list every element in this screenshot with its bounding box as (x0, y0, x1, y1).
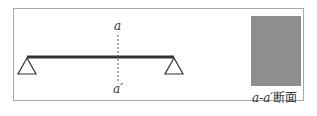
cut-label-bottom: a′ (113, 82, 123, 96)
section-label-prefix: a-a′ (252, 91, 273, 105)
section-label-suffix: 断面 (273, 91, 297, 105)
cut-label-top: a (114, 19, 121, 33)
section-label: a-a′断面 (252, 88, 297, 105)
left-support-icon (18, 58, 36, 74)
right-support-icon (165, 58, 183, 74)
cross-section-rectangle (251, 16, 301, 86)
